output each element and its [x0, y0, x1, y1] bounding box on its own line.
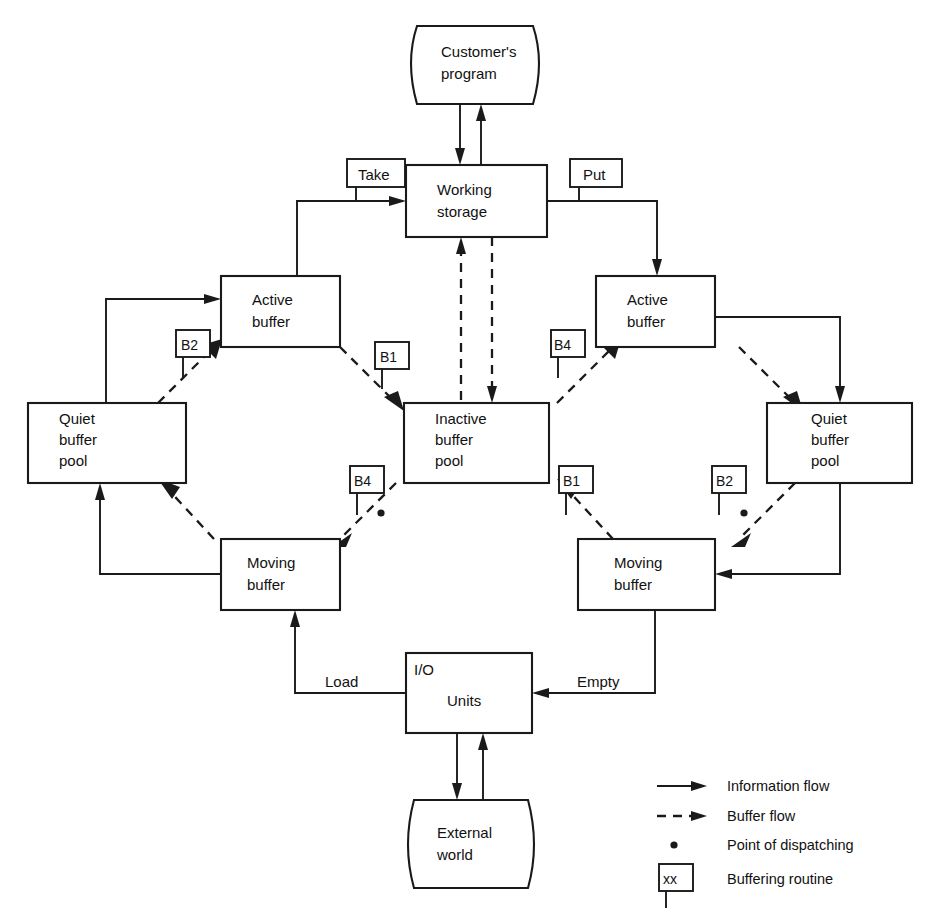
arrow-working-to-customer	[476, 104, 486, 165]
legend-point-of-dispatching-label: Point of dispatching	[727, 837, 854, 853]
dispatch-dot-right	[740, 509, 747, 516]
inactive-pool-label-line1: Inactive	[435, 410, 487, 427]
node-customers-program: Customer's program	[411, 26, 539, 104]
external-world-label-line1: External	[437, 824, 492, 841]
inactive-pool-label-line2: buffer	[435, 431, 473, 448]
empty-label: Empty	[577, 673, 620, 690]
inactive-pool-label-line3: pool	[435, 452, 463, 469]
routine-tag-right-b4-label: B4	[554, 337, 571, 353]
node-inactive-buffer-pool: Inactive buffer pool	[404, 403, 549, 483]
tag-put: Put	[570, 159, 622, 201]
legend-routine-sample-label: xx	[663, 871, 677, 887]
node-working-storage: Working storage	[406, 165, 547, 237]
quiet-pool-right-label-line1: Quiet	[811, 410, 848, 427]
legend-buffering-routine-label: Buffering routine	[727, 871, 833, 887]
routine-tag-right-b2: B2	[712, 466, 746, 515]
node-io-units: I/O Units	[406, 653, 532, 733]
node-active-buffer-left: Active buffer	[221, 276, 340, 347]
routine-tag-left-b2-label: B2	[181, 337, 198, 353]
customers-program-label-line2: program	[441, 65, 497, 82]
node-active-buffer-right: Active buffer	[596, 276, 715, 347]
legend-item-point-of-dispatching: Point of dispatching	[670, 837, 853, 853]
moving-buffer-right-label-line2: buffer	[614, 576, 652, 593]
node-quiet-buffer-pool-right: Quiet buffer pool	[767, 403, 912, 483]
flow-put	[547, 201, 662, 276]
flow-active-to-quiet-right	[715, 317, 845, 403]
legend-dispatch-dot-icon	[670, 841, 677, 848]
flow-load: Load	[290, 610, 406, 693]
flow-empty: Empty	[532, 610, 655, 698]
take-label: Take	[358, 166, 390, 183]
tag-take: Take	[347, 159, 405, 201]
routine-tag-right-b2-label: B2	[716, 473, 733, 489]
io-units-label-line2: Units	[447, 692, 481, 709]
left-octagon-buffer-flows	[158, 339, 404, 547]
routine-tag-left-b4: B4	[350, 466, 384, 515]
node-external-world: External world	[408, 800, 534, 888]
routine-tag-left-b2: B2	[176, 330, 210, 378]
routine-tag-left-b1-label: B1	[380, 349, 397, 365]
arrow-customer-to-working	[455, 104, 465, 165]
quiet-pool-left-label-line2: buffer	[59, 431, 97, 448]
flow-quiet-to-moving-right	[715, 483, 840, 579]
working-storage-label-line2: storage	[437, 203, 487, 220]
quiet-pool-left-label-line3: pool	[59, 452, 87, 469]
load-label: Load	[325, 673, 358, 690]
active-buffer-right-label-line1: Active	[627, 291, 668, 308]
moving-buffer-left-label-line2: buffer	[247, 576, 285, 593]
moving-buffer-right-label-line1: Moving	[614, 554, 662, 571]
node-moving-buffer-right: Moving buffer	[578, 539, 715, 610]
legend-buffer-flow-label: Buffer flow	[727, 808, 796, 824]
moving-buffer-left-label-line1: Moving	[247, 554, 295, 571]
io-units-label-line1: I/O	[414, 661, 434, 678]
quiet-pool-left-label-line1: Quiet	[59, 410, 96, 427]
legend-item-buffering-routine: xx Buffering routine	[659, 864, 833, 908]
buffering-flow-diagram: Customer's program Working storage Take …	[0, 0, 935, 917]
routine-tag-center-b1: B1	[559, 466, 593, 515]
node-moving-buffer-left: Moving buffer	[221, 539, 340, 610]
flow-take	[297, 196, 406, 276]
working-storage-label-line1: Working	[437, 181, 492, 198]
quiet-pool-right-label-line2: buffer	[811, 431, 849, 448]
legend-item-information-flow: Information flow	[657, 778, 830, 794]
arrow-external-to-io	[478, 733, 488, 800]
active-buffer-left-label-line1: Active	[252, 291, 293, 308]
legend: Information flow Buffer flow Point of di…	[657, 778, 854, 908]
flow-moving-to-quiet-left	[95, 483, 221, 574]
legend-information-flow-label: Information flow	[727, 778, 830, 794]
routine-tag-right-b4: B4	[551, 330, 585, 378]
active-buffer-right-label-line2: buffer	[627, 313, 665, 330]
external-world-label-line2: world	[436, 846, 473, 863]
routine-tag-left-b4-label: B4	[354, 473, 371, 489]
legend-item-buffer-flow: Buffer flow	[657, 808, 796, 824]
put-label: Put	[583, 166, 606, 183]
quiet-pool-right-label-line3: pool	[811, 452, 839, 469]
customers-program-label-line1: Customer's	[441, 43, 516, 60]
arrow-io-to-external	[452, 733, 462, 800]
routine-tag-left-b1: B1	[375, 342, 409, 389]
active-buffer-left-label-line2: buffer	[252, 313, 290, 330]
buffer-flow-working-to-inactive	[487, 237, 497, 403]
dispatch-dot-left	[377, 509, 384, 516]
routine-tag-center-b1-label: B1	[563, 473, 580, 489]
node-quiet-buffer-pool-left: Quiet buffer pool	[28, 403, 186, 483]
buffer-flow-inactive-to-working	[456, 237, 466, 403]
